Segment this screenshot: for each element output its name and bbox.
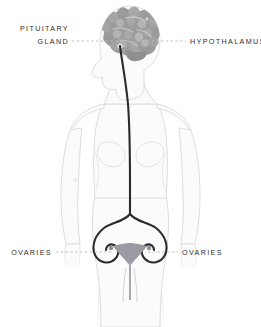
brain-fold xyxy=(116,19,124,27)
label-pituitary-gland-line1: PITUITARY xyxy=(20,24,69,33)
brain-fold xyxy=(113,30,121,38)
navel-mark xyxy=(73,178,77,182)
brain-fold xyxy=(124,31,133,40)
hand-left xyxy=(65,244,80,268)
label-pituitary-gland-line2: GLAND xyxy=(37,37,69,46)
label-hypothalamus: HYPOTHALAMUS xyxy=(190,37,261,46)
uterus-canal xyxy=(129,262,131,300)
ovary-left xyxy=(109,246,113,250)
ovary-right xyxy=(147,246,151,250)
label-ovaries-left: OVARIES xyxy=(11,248,52,257)
brain-fold xyxy=(141,39,149,47)
arm-left xyxy=(61,128,82,244)
label-ovaries-right: OVARIES xyxy=(182,248,223,257)
arm-right xyxy=(179,128,200,244)
brain-gyrus xyxy=(101,22,111,32)
brain-gyrus xyxy=(128,6,139,17)
brain-gyrus xyxy=(152,27,162,37)
anatomy-diagram: PITUITARY GLAND HYPOTHALAMUS OVARIES OVA… xyxy=(0,0,261,327)
brain-gyrus xyxy=(149,37,158,46)
brain-fold xyxy=(135,33,144,42)
brain-highlight xyxy=(146,18,149,21)
diagram-canvas: PITUITARY GLAND HYPOTHALAMUS OVARIES OVA… xyxy=(0,0,261,327)
